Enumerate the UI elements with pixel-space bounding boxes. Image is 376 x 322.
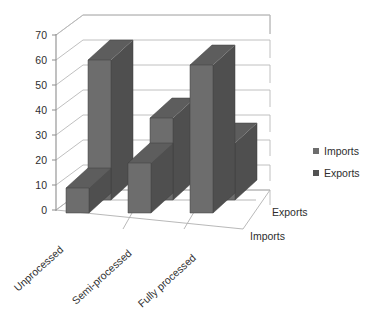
legend: Imports Exports [313,145,360,179]
legend-swatch-exports [313,170,319,176]
category-axis-labels: Unprocessed Semi-processed Fully process… [11,243,198,309]
bar-imports-fully-processed [190,45,235,213]
y-tick-label: 60 [35,54,47,66]
category-label-unprocessed: Unprocessed [11,243,65,293]
y-tick-label: 30 [35,129,47,141]
legend-item-exports[interactable]: Exports [313,167,360,179]
legend-label-imports: Imports [324,145,359,157]
y-tick-label: 40 [35,104,47,116]
y-tick-label: 50 [35,79,47,91]
y-tick-label: 70 [35,29,47,41]
y-tick-label: 10 [35,179,47,191]
bar-imports-semi-processed [128,143,173,213]
y-tick-label: 0 [41,204,47,216]
depth-label-exports: Exports [272,206,308,218]
legend-item-imports[interactable]: Imports [313,145,359,157]
y-axis [52,34,56,211]
chart-container: 70 60 50 40 30 20 10 0 [0,0,376,322]
depth-label-imports: Imports [250,230,285,242]
depth-axis-labels: Exports Imports [250,206,308,242]
category-label-semi-processed: Semi-processed [69,247,134,307]
bar-imports-unprocessed [66,168,111,213]
category-label-fully-processed: Fully processed [135,251,198,309]
y-tick-label: 20 [35,154,47,166]
y-axis-tick-labels: 70 60 50 40 30 20 10 0 [35,29,47,216]
bar-chart-3d: 70 60 50 40 30 20 10 0 [0,0,376,322]
legend-label-exports: Exports [324,167,360,179]
legend-swatch-imports [313,148,319,154]
